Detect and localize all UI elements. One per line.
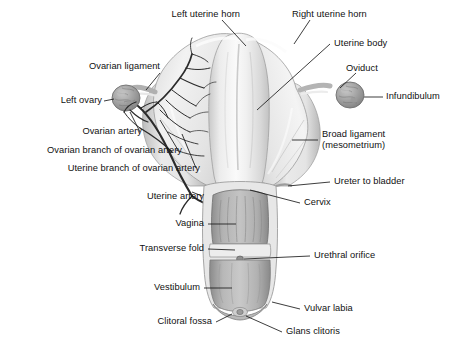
leader-left-uterine-horn bbox=[222, 20, 246, 46]
label-vulvar-labia: Vulvar labia bbox=[304, 303, 353, 314]
label-uterine-body: Uterine body bbox=[334, 38, 387, 49]
leader-vulvar-labia bbox=[272, 302, 300, 309]
label-cervix: Cervix bbox=[304, 197, 331, 208]
label-clitoral-fossa: Clitoral fossa bbox=[158, 316, 212, 327]
label-uterine-artery: Uterine artery bbox=[147, 191, 204, 202]
label-left-ovary: Left ovary bbox=[61, 95, 102, 106]
leader-ovarian-ligament bbox=[146, 73, 160, 90]
leader-ureter-to-bladder bbox=[288, 182, 330, 186]
leader-urethral-orifice bbox=[244, 256, 310, 259]
label-transverse-fold: Transverse fold bbox=[140, 243, 204, 254]
label-ovarian-artery: Ovarian artery bbox=[82, 126, 142, 137]
leader-transverse-fold bbox=[208, 249, 235, 250]
leader-glans-clitoris bbox=[246, 316, 282, 332]
label-ovarian-ligament: Ovarian ligament bbox=[89, 61, 160, 72]
label-glans-clitoris: Glans clitoris bbox=[286, 326, 340, 337]
leader-left-ovary bbox=[104, 99, 114, 101]
label-ureter-to-bladder: Ureter to bladder bbox=[334, 176, 405, 187]
leader-uterine-body bbox=[257, 44, 330, 110]
leader-oviduct bbox=[340, 73, 356, 88]
leader-clitoral-fossa bbox=[216, 314, 232, 322]
label-infundibulum: Infundibulum bbox=[386, 91, 440, 102]
leader-right-uterine-horn bbox=[294, 20, 310, 44]
label-vestibulum: Vestibulum bbox=[154, 282, 200, 293]
label-broad-ligament-line2: (mesometrium) bbox=[322, 140, 385, 151]
label-vagina: Vagina bbox=[175, 218, 204, 229]
label-oviduct: Oviduct bbox=[346, 63, 378, 74]
label-uterine-branch-of-ovarian-artery: Uterine branch of ovarian artery bbox=[68, 163, 200, 174]
anatomical-figure: Left uterine horn Right uterine horn Ute… bbox=[0, 0, 450, 342]
label-right-uterine-horn: Right uterine horn bbox=[292, 9, 367, 20]
leader-cervix bbox=[250, 190, 300, 203]
label-broad-ligament-line1: Broad ligament bbox=[322, 129, 385, 140]
label-broad-ligament: Broad ligament (mesometrium) bbox=[322, 129, 385, 151]
label-ovarian-branch-of-ovarian-artery: Ovarian branch of ovarian artery bbox=[47, 145, 182, 156]
label-urethral-orifice: Urethral orifice bbox=[314, 250, 375, 261]
label-left-uterine-horn: Left uterine horn bbox=[171, 9, 240, 20]
